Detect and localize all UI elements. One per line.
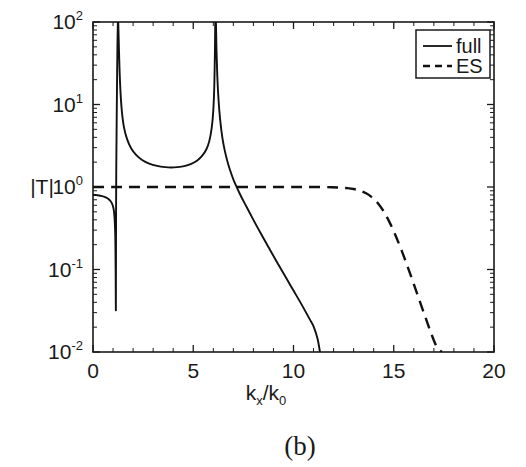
x-axis-title-k2: k xyxy=(269,381,280,404)
x-tick-label: 5 xyxy=(187,359,199,382)
x-axis-title-sub-0: 0 xyxy=(279,393,286,408)
x-tick-label: 15 xyxy=(382,359,405,382)
x-tick-label: 0 xyxy=(87,359,99,382)
x-tick-label: 20 xyxy=(482,359,505,382)
legend[interactable]: full ES xyxy=(416,30,490,78)
panel-caption: (b) xyxy=(284,431,315,461)
legend-label-es: ES xyxy=(456,55,483,77)
y-axis-title: |T| xyxy=(30,175,54,198)
chart-svg: 05101520 10-210-1100101102 |T| kx/k0 ful… xyxy=(0,0,526,467)
legend-label-full: full xyxy=(456,35,482,57)
x-tick-label: 10 xyxy=(282,359,305,382)
figure-panel-b: 05101520 10-210-1100101102 |T| kx/k0 ful… xyxy=(0,0,526,467)
x-axis-title-k1: k xyxy=(246,381,257,404)
